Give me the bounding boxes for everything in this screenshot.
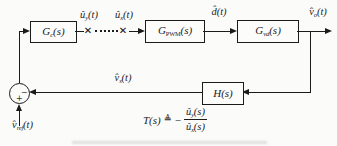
signal-label-vref: v̂ref(t) [12, 119, 58, 131]
block-gvd-label: Gvd(s) [255, 25, 281, 38]
formula-fraction: ûy(s) ûx(s) [184, 106, 207, 134]
signal-label-d: d̂(t) [205, 6, 233, 18]
signal-rest: (t) [88, 9, 98, 20]
block-args: (s) [269, 24, 281, 36]
wire [203, 31, 230, 32]
injection-break-icon: ✕ [82, 25, 94, 37]
arrowhead-icon [230, 28, 237, 34]
signal-rest: (t) [23, 119, 33, 130]
signal-rest: (t) [317, 6, 327, 17]
signal-rest: (t) [217, 6, 227, 17]
block-gpwm: GPWM(s) [145, 20, 205, 43]
formula-lhs: T(s) [143, 114, 161, 126]
signal-rest: (s) [194, 121, 205, 132]
dotted-wire [95, 30, 118, 32]
loop-gain-formula: T(s) ≜ − ûy(s) ûx(s) [143, 106, 207, 134]
block-gc: Gc(s) [30, 21, 77, 43]
block-args: (s) [53, 25, 65, 37]
block-name: G [255, 24, 263, 36]
signal-label-vo: v̂o(t) [302, 6, 334, 18]
wire [297, 31, 325, 32]
signal-label-uy: ûy(t) [77, 9, 101, 21]
arrowhead-icon [325, 28, 332, 34]
formula-denominator: ûx(s) [184, 120, 207, 133]
block-gvd: Gvd(s) [237, 20, 299, 43]
wire [129, 31, 138, 32]
signal-rest: (t) [122, 72, 132, 83]
block-sub: PWM [166, 30, 181, 37]
block-args: (s) [221, 87, 233, 99]
arrowhead-icon [138, 28, 145, 34]
signal-label-ux: ûx(t) [112, 9, 136, 21]
triangle-equals-icon: ≜ [164, 113, 172, 124]
block-name: H [213, 87, 221, 99]
formula-numerator: ûy(s) [184, 106, 207, 120]
signal-rest: (s) [194, 106, 205, 117]
block-h: H(s) [202, 82, 244, 105]
wire [310, 31, 311, 92]
signal-rest: (t) [123, 9, 133, 20]
wire [249, 92, 311, 93]
arrowhead-icon [29, 89, 36, 95]
block-gpwm-label: GPWM(s) [158, 25, 192, 37]
arrowhead-icon [23, 28, 30, 34]
wire [19, 31, 20, 83]
plus-sign: + [16, 95, 23, 103]
formula-minus: − [175, 114, 181, 126]
cropped-caption [72, 141, 267, 144]
block-h-label: H(s) [213, 88, 233, 99]
block-diagram: Gc(s) ✕ ✕ ûy(t) ûx(t) GPWM(s) d̂(t) Gvd(… [0, 0, 337, 146]
injection-break-icon: ✕ [117, 25, 129, 37]
block-name: G [158, 24, 166, 36]
signal-label-vs: v̂s(t) [105, 72, 141, 84]
wire [36, 92, 202, 93]
block-args: (s) [180, 24, 192, 36]
block-gc-label: Gc(s) [42, 26, 64, 39]
